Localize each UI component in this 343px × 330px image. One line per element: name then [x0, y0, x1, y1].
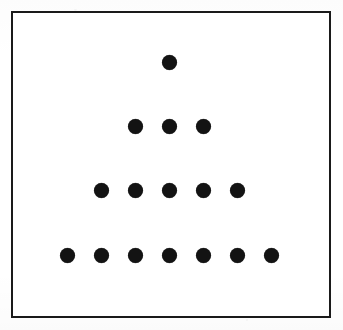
dot-r4-c6	[230, 248, 245, 263]
figure-root: Triangular dot array A solid black recta…	[0, 0, 343, 330]
dot-r4-c7	[264, 248, 279, 263]
dot-r4-c5	[196, 248, 211, 263]
dot-canvas	[0, 0, 343, 330]
dot-r3-c4	[196, 183, 211, 198]
dot-r3-c2	[128, 183, 143, 198]
dot-r1-c1	[162, 55, 177, 70]
dot-r4-c1	[60, 248, 75, 263]
dot-r4-c4	[162, 248, 177, 263]
dot-r2-c2	[162, 119, 177, 134]
dot-r4-c2	[94, 248, 109, 263]
dot-r4-c3	[128, 248, 143, 263]
dot-r2-c3	[196, 119, 211, 134]
dot-r3-c3	[162, 183, 177, 198]
dot-r3-c1	[94, 183, 109, 198]
dot-r3-c5	[230, 183, 245, 198]
dot-r2-c1	[128, 119, 143, 134]
